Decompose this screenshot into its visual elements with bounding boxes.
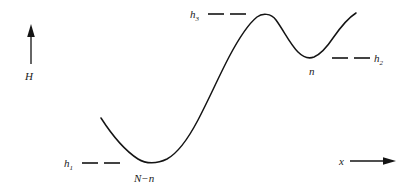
vertical-axis-label: H: [24, 70, 34, 82]
point-label-n-minus-n: N−n: [133, 172, 155, 184]
vertical-axis-arrow: [27, 24, 35, 64]
level-label-h1: h1: [64, 157, 73, 172]
level-label-h2: h2: [374, 52, 384, 67]
level-label-h3: h3: [190, 8, 200, 23]
enthalpy-diagram: H x h3 h2 h1 N−n n: [0, 0, 412, 195]
point-label-n: n: [309, 65, 315, 77]
horizontal-axis-label: x: [338, 155, 344, 167]
enthalpy-curve: [101, 13, 356, 163]
horizontal-axis-arrow: [350, 157, 396, 165]
